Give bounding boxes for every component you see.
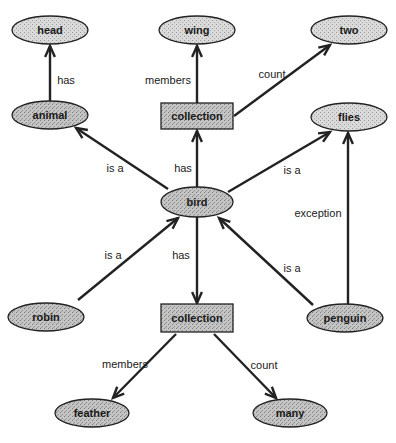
node-collection1[interactable]: collection	[161, 103, 233, 129]
edge-animal-head: has	[45, 46, 75, 101]
node-label: many	[276, 407, 306, 419]
edge-line	[78, 218, 178, 300]
edge-label: is a	[104, 249, 122, 261]
semantic-network-diagram: hasmemberscountis ahasis ais ahasis aexc…	[0, 0, 396, 443]
node-wing[interactable]: wing	[159, 16, 235, 44]
node-flies[interactable]: flies	[311, 103, 387, 131]
node-label: animal	[33, 109, 68, 121]
node-bird[interactable]: bird	[161, 187, 233, 217]
node-label: penguin	[324, 312, 367, 324]
node-collection2[interactable]: collection	[161, 304, 233, 332]
node-label: collection	[171, 110, 223, 122]
edge-label: is a	[283, 262, 301, 274]
edge-label: exception	[294, 207, 341, 219]
node-robin[interactable]: robin	[8, 303, 84, 331]
edge-label: is a	[283, 164, 301, 176]
node-label: feather	[74, 407, 111, 419]
edge-label: members	[145, 74, 191, 86]
edge-bird-flies: is a	[228, 132, 330, 192]
node-many[interactable]: many	[253, 399, 327, 427]
node-head[interactable]: head	[12, 16, 88, 44]
edge-label: is a	[106, 162, 124, 174]
edge-bird-collection2: has	[172, 217, 202, 303]
edge-penguin-bird: is a	[219, 218, 313, 305]
node-feather[interactable]: feather	[55, 399, 129, 427]
edge-label: members	[102, 358, 148, 370]
node-animal[interactable]: animal	[12, 101, 88, 129]
node-label: collection	[171, 312, 223, 324]
node-label: robin	[32, 311, 60, 323]
edge-label: has	[174, 162, 192, 174]
edge-penguin-flies: exception	[294, 133, 352, 304]
edge-label: count	[251, 359, 278, 371]
edges-layer: hasmemberscountis ahasis ais ahasis aexc…	[45, 45, 353, 398]
edge-collection2-many: count	[214, 334, 277, 398]
node-label: wing	[183, 24, 209, 36]
edge-label: has	[172, 249, 190, 261]
edge-collection1-two: count	[234, 45, 330, 116]
node-label: flies	[338, 111, 360, 123]
edge-line	[234, 45, 330, 116]
node-penguin[interactable]: penguin	[307, 304, 383, 332]
node-two[interactable]: two	[311, 16, 387, 44]
edge-label: count	[259, 68, 286, 80]
edge-robin-bird: is a	[78, 218, 178, 300]
edge-line	[228, 132, 330, 192]
edge-bird-animal: is a	[76, 128, 168, 189]
edge-collection1-wing: members	[145, 46, 202, 103]
edge-collection2-feather: members	[102, 334, 176, 398]
edge-line	[76, 128, 168, 189]
edge-bird-collection1: has	[174, 131, 202, 187]
node-label: head	[37, 24, 63, 36]
node-label: two	[340, 24, 359, 36]
node-label: bird	[187, 196, 208, 208]
edge-label: has	[57, 74, 75, 86]
